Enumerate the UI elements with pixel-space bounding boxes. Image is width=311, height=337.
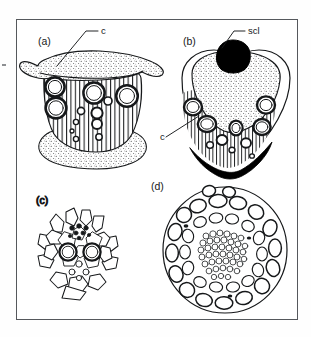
panel-c-drawing: (c) <box>36 194 118 300</box>
panel-a-drawing: (a) <box>20 35 164 169</box>
panel-a-label: (a) <box>38 35 51 47</box>
cambium-b-label: c <box>160 131 165 142</box>
cambium-a-label: c <box>101 25 106 36</box>
panel-d-label: (d) <box>151 180 164 192</box>
figure-page: (a) <box>0 0 311 337</box>
panel-b-sclerenchyma-cap <box>216 40 250 73</box>
panel-a-upper-phloem <box>20 51 164 81</box>
panel-d-drawing: (d) <box>151 180 287 313</box>
sclerenchyma-b-label: scl <box>248 25 260 36</box>
panel-c-label: (c) <box>36 194 48 206</box>
panel-b-label: (b) <box>183 35 196 47</box>
botanical-plate-drawing: (a) <box>0 0 311 337</box>
panel-b-drawing: (b) <box>178 35 290 181</box>
